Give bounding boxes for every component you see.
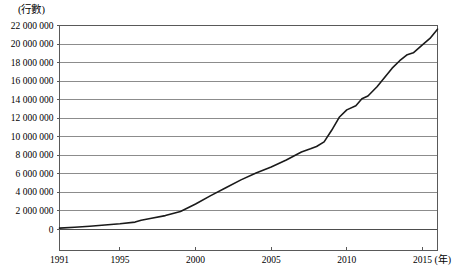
x-axis-tick-marks [60, 247, 423, 251]
chart-plot-area [0, 0, 454, 275]
chart-container: (行數) (年) 02 000 0004 000 0006 000 0008 0… [0, 0, 454, 275]
data-series-group [60, 29, 438, 228]
plot-frame [60, 26, 438, 251]
gridlines-group [60, 26, 438, 230]
